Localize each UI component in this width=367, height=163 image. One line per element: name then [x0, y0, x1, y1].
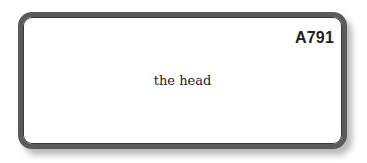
- card-text: the head: [23, 73, 342, 88]
- flashcard: A791 the head: [18, 12, 347, 149]
- card-id-label: A791: [295, 29, 334, 47]
